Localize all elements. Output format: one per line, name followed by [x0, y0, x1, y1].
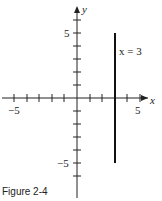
x-tick-label-5: 5: [135, 104, 141, 116]
x-arrow-icon: [141, 95, 148, 101]
x-tick-label-neg5: −5: [8, 104, 20, 116]
chart: x y −5 5 5 −5 x = 3: [0, 0, 162, 201]
figure-caption: Figure 2-4: [2, 186, 48, 197]
y-arrow-icon: [74, 6, 80, 13]
x-axis-label: x: [149, 94, 155, 106]
line-label: x = 3: [119, 45, 142, 57]
y-tick-label-neg5: −5: [57, 157, 69, 169]
y-axis-label: y: [81, 3, 87, 15]
y-tick-label-5: 5: [64, 27, 70, 39]
